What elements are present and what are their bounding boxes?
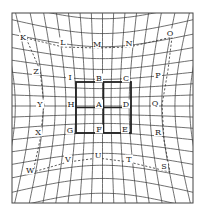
point-label-u: U xyxy=(95,151,102,160)
point-label-h: H xyxy=(68,100,75,109)
point-label-b: B xyxy=(96,74,102,83)
point-label-s: S xyxy=(161,162,166,171)
point-label-g: G xyxy=(67,126,73,135)
point-label-f: F xyxy=(96,125,102,134)
grid-line xyxy=(0,115,204,121)
grid-line xyxy=(0,45,204,69)
point-label-t: T xyxy=(126,155,132,164)
point-label-r: R xyxy=(155,128,162,137)
grid-line xyxy=(0,91,204,97)
point-label-k: K xyxy=(20,33,27,42)
point-label-a: A xyxy=(95,100,102,109)
point-label-o: O xyxy=(167,29,174,38)
grid-line xyxy=(0,0,204,2)
point-label-z: Z xyxy=(33,67,39,76)
point-label-q: Q xyxy=(152,99,159,108)
point-label-e: E xyxy=(122,125,128,134)
point-label-i: I xyxy=(68,73,71,82)
point-label-w: W xyxy=(26,166,35,175)
grid-line xyxy=(0,133,204,151)
point-label-p: P xyxy=(155,71,161,80)
grid-line xyxy=(42,0,66,215)
point-label-x: X xyxy=(35,128,41,137)
point-label-y: Y xyxy=(36,100,43,109)
grid-line xyxy=(0,210,204,215)
point-labels: KLMNOZIBCPYHADQXGFERWVUTS xyxy=(19,29,174,175)
point-label-m: M xyxy=(93,40,101,49)
point-label-d: D xyxy=(123,100,129,109)
point-label-v: V xyxy=(64,155,71,164)
point-label-n: N xyxy=(126,39,133,48)
grid-line xyxy=(0,0,15,215)
distortion-grid-diagram: KLMNOZIBCPYHADQXGFERWVUTS xyxy=(0,0,204,215)
point-label-l: L xyxy=(60,38,66,47)
point-label-c: C xyxy=(123,74,129,83)
grid-line xyxy=(190,0,204,215)
